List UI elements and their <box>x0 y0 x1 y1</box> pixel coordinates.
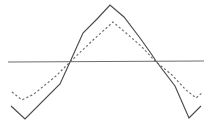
chart-canvas <box>0 0 212 125</box>
chart-figure <box>0 0 212 125</box>
chart-background <box>0 0 212 125</box>
